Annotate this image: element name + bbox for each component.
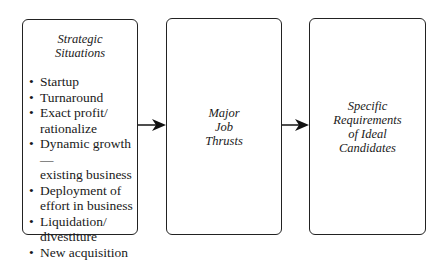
strategic-situations-box: Strategic Situations Startup Turnaround … xyxy=(22,19,138,235)
list-item: New acquisition xyxy=(29,245,137,260)
list-item: Deployment of effort in business xyxy=(29,183,137,214)
item-line: effort in business xyxy=(40,198,137,214)
list-item: Liquidation/ divestiture xyxy=(29,214,137,245)
ideal-candidate-requirements-title: Specific Requirements of Ideal Candidate… xyxy=(333,99,401,155)
item-line: rationalize xyxy=(40,121,137,137)
arrow-right-icon xyxy=(137,118,166,132)
item-line: Dynamic growth— xyxy=(40,136,137,167)
title-line: Specific xyxy=(333,99,401,113)
item-line: Turnaround xyxy=(40,90,137,106)
item-line: existing business xyxy=(40,167,137,183)
major-job-thrusts-box: Major Job Thrusts xyxy=(166,18,282,235)
item-line: New acquisition xyxy=(40,245,137,260)
title-line: of Ideal xyxy=(333,127,401,141)
title-line: Candidates xyxy=(333,141,401,155)
item-line: Liquidation/ xyxy=(40,214,137,230)
major-job-thrusts-title: Major Job Thrusts xyxy=(205,106,243,148)
strategic-situations-title: Strategic Situations xyxy=(23,32,137,60)
title-line: Thrusts xyxy=(205,134,243,148)
list-item: Dynamic growth— existing business xyxy=(29,136,137,183)
title-line: Strategic xyxy=(23,32,137,46)
title-line: Major xyxy=(205,106,243,120)
title-line: Requirements xyxy=(333,113,401,127)
title-line: Situations xyxy=(23,46,137,60)
item-line: divestiture xyxy=(40,229,137,245)
list-item: Startup xyxy=(29,74,137,90)
list-item: Exact profit/ rationalize xyxy=(29,105,137,136)
item-line: Exact profit/ xyxy=(40,105,137,121)
strategic-situations-list: Startup Turnaround Exact profit/ rationa… xyxy=(23,74,137,260)
item-line: Deployment of xyxy=(40,183,137,199)
list-item: Turnaround xyxy=(29,90,137,106)
ideal-candidate-requirements-box: Specific Requirements of Ideal Candidate… xyxy=(309,18,426,235)
arrow-right-icon xyxy=(281,118,309,132)
item-line: Startup xyxy=(40,74,137,90)
title-line: Job xyxy=(205,120,243,134)
